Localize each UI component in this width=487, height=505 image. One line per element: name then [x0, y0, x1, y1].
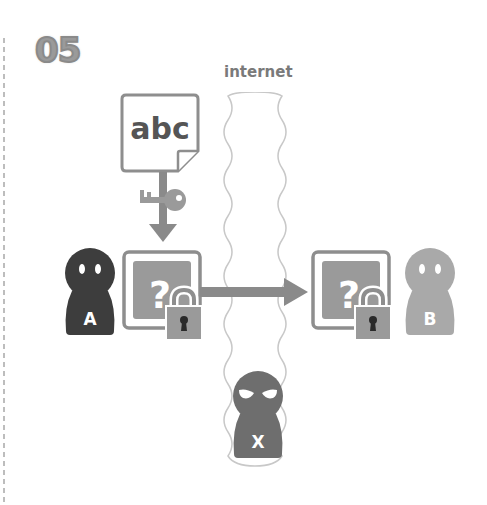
- step-number: 05: [35, 30, 80, 70]
- receiver-label: B: [424, 309, 437, 329]
- internet-label: internet: [224, 63, 293, 81]
- receiver-encrypted-message: ?: [311, 250, 401, 345]
- dashed-divider: [0, 0, 10, 505]
- sender-encrypted-message: ?: [122, 250, 212, 345]
- attacker-label: X: [251, 432, 264, 452]
- document-icon: abc: [120, 93, 205, 178]
- document-text: abc: [130, 111, 190, 146]
- transmission-arrow: [200, 276, 310, 310]
- attacker-person: X: [228, 368, 288, 463]
- sender-person: A: [60, 245, 120, 340]
- key-arrow: [135, 172, 205, 252]
- receiver-person: B: [400, 245, 460, 340]
- sender-label: A: [83, 309, 97, 329]
